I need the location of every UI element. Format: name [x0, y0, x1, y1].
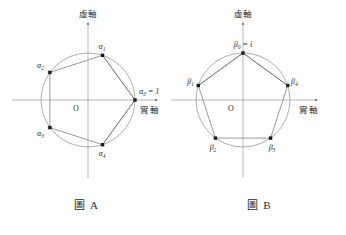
- chord-alpha0-alpha1: [103, 55, 136, 100]
- label-alpha-0: α0 = 1: [139, 87, 159, 97]
- imaginary-axis-arrow-tick: [87, 23, 89, 25]
- point-alpha-2: [48, 71, 51, 74]
- point-alpha-4: [101, 143, 104, 146]
- real-axis-arrow-tick: [155, 99, 157, 101]
- figure-b: 虛軸 實軸 O β0 = i β1 β2 β3 β4 圖 B: [173, 0, 346, 235]
- label-beta-2: β2: [209, 143, 217, 153]
- root-canvas: 虛軸 實軸 O α0 = 1 α1 α2 α3 α4 圖 A: [0, 0, 346, 235]
- point-alpha-3: [48, 126, 51, 129]
- imaginary-axis-arrow-tick: [242, 23, 244, 25]
- chord-alpha0-alpha4: [103, 100, 136, 145]
- chord-beta0-beta4: [243, 53, 288, 86]
- label-alpha-2: α2: [37, 61, 44, 71]
- figure-b-caption: 圖 B: [173, 196, 346, 212]
- label-beta-0: β0 = i: [233, 40, 252, 50]
- figure-b-diagram: 虛軸 實軸 O β0 = i β1 β2 β3 β4: [173, 0, 346, 200]
- label-beta-3: β3: [268, 143, 276, 153]
- origin-label: O: [228, 104, 234, 113]
- real-axis-label: 實軸: [299, 105, 318, 115]
- imaginary-axis-label: 虛軸: [234, 9, 253, 19]
- point-beta-4: [286, 84, 289, 87]
- chord-beta0-beta1: [198, 53, 243, 86]
- point-alpha-0: [133, 98, 136, 101]
- real-axis-arrow-tick: [315, 99, 317, 101]
- point-beta-3: [269, 136, 272, 139]
- origin-label: O: [73, 104, 79, 113]
- label-beta-4: β4: [290, 77, 298, 87]
- real-axis-label: 實軸: [140, 105, 159, 115]
- label-alpha-4: α4: [99, 149, 106, 159]
- figure-a: 虛軸 實軸 O α0 = 1 α1 α2 α3 α4 圖 A: [0, 0, 173, 235]
- label-alpha-3: α3: [37, 129, 44, 139]
- label-beta-1: β1: [186, 77, 194, 87]
- label-alpha-1: α1: [99, 42, 106, 52]
- point-alpha-1: [101, 54, 104, 57]
- figure-a-diagram: 虛軸 實軸 O α0 = 1 α1 α2 α3 α4: [0, 0, 173, 200]
- point-beta-1: [197, 84, 200, 87]
- figure-a-caption: 圖 A: [0, 196, 173, 212]
- point-beta-2: [214, 136, 217, 139]
- point-beta-0: [241, 51, 244, 54]
- imaginary-axis-label: 虛軸: [79, 9, 98, 19]
